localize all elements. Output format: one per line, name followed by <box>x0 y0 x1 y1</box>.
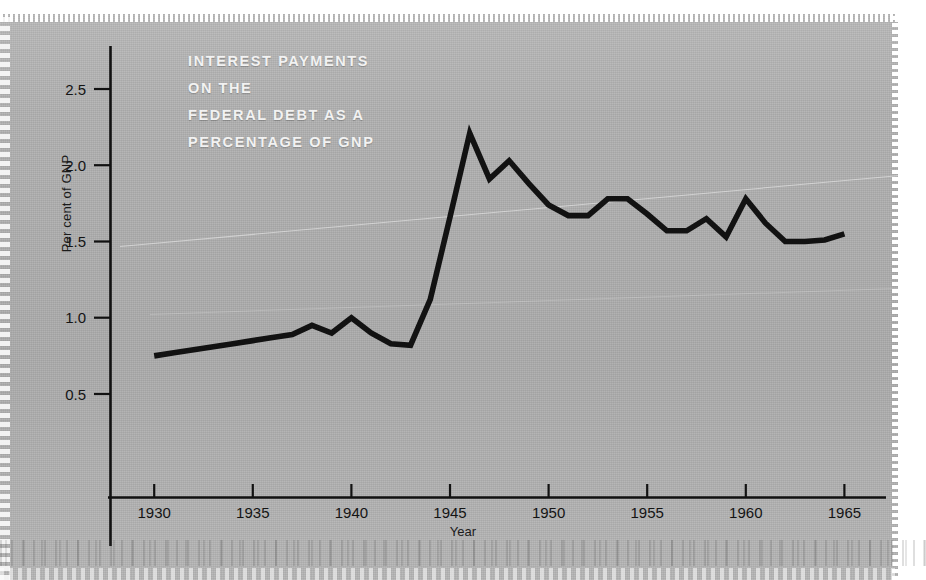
y-axis-label: Per cent of GNP <box>59 124 74 284</box>
chart-figure: 0.5 1.0 1.5 2.0 2.5 1930 1935 <box>0 0 926 580</box>
y-tick-label: 1.0 <box>65 309 86 326</box>
chart-title-line-3: FEDERAL DEBT AS A <box>188 102 374 129</box>
x-tick-label: 1930 <box>138 504 171 521</box>
x-tick-marks <box>154 484 844 497</box>
x-tick-label: 1935 <box>236 504 269 521</box>
scanned-page: 0.5 1.0 1.5 2.0 2.5 1930 1935 <box>0 0 926 580</box>
x-tick-labels: 1930 1935 1940 1945 1950 1955 1960 1965 <box>138 504 862 521</box>
x-tick-label: 1950 <box>532 504 565 521</box>
chart-title-line-2: ON THE <box>188 75 374 102</box>
x-axis-label: Year <box>0 524 926 539</box>
data-series-line <box>154 133 844 356</box>
y-tick-label: 2.5 <box>65 81 86 98</box>
chart-title-block: INTEREST PAYMENTS ON THE FEDERAL DEBT AS… <box>188 48 374 156</box>
chart-title-line-4: PERCENTAGE OF GNP <box>188 129 374 156</box>
x-tick-label: 1965 <box>828 504 861 521</box>
x-tick-label: 1955 <box>631 504 664 521</box>
chart-svg: 0.5 1.0 1.5 2.0 2.5 1930 1935 <box>0 0 926 580</box>
x-tick-label: 1960 <box>729 504 762 521</box>
y-tick-marks <box>94 89 110 394</box>
x-tick-label: 1940 <box>335 504 368 521</box>
x-tick-label: 1945 <box>433 504 466 521</box>
y-tick-label: 0.5 <box>65 386 86 403</box>
chart-title-line-1: INTEREST PAYMENTS <box>188 48 374 75</box>
